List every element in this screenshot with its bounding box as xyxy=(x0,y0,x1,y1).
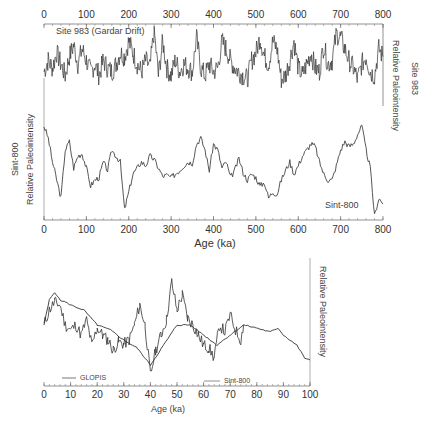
tick-label: 800 xyxy=(375,9,392,20)
tick-label: 800 xyxy=(375,224,392,235)
figure: 0100200300400500600700800 01002003004005… xyxy=(0,0,430,422)
tick-label: 90 xyxy=(278,389,290,400)
tick-label: 700 xyxy=(332,9,349,20)
bottom-chart-axis-ticks xyxy=(44,382,310,386)
bottom-axis-tick-labels: 0100200300400500600700800 xyxy=(41,224,392,235)
tick-label: 0 xyxy=(41,389,47,400)
sint-800-bottom-series-line xyxy=(44,293,310,366)
sint-800-annotation: Sint-800 xyxy=(325,200,359,210)
left-y-label-relative-paleointensity: Relative Paleointensity xyxy=(25,113,35,205)
tick-label: 300 xyxy=(163,224,180,235)
top-chart: 0100200300400500600700800 01002003004005… xyxy=(10,9,420,249)
tick-label: 200 xyxy=(120,224,137,235)
tick-label: 20 xyxy=(92,389,104,400)
legend-glopis-label: GLOPIS xyxy=(80,374,106,381)
legend-sint-800-label: Sint-800 xyxy=(224,377,250,384)
tick-label: 200 xyxy=(120,9,137,20)
tick-label: 300 xyxy=(163,9,180,20)
bottom-chart: 0102030405060708090100 GLOPIS Sint-800 A… xyxy=(41,258,328,414)
tick-label: 80 xyxy=(251,389,263,400)
tick-label: 600 xyxy=(290,224,307,235)
tick-label: 0 xyxy=(41,224,47,235)
tick-label: 0 xyxy=(41,9,47,20)
top-axis-tick-labels: 0100200300400500600700800 xyxy=(41,9,392,20)
tick-label: 10 xyxy=(65,389,77,400)
bottom-axis-ticks xyxy=(44,216,383,220)
tick-label: 700 xyxy=(332,224,349,235)
tick-label: 30 xyxy=(118,389,130,400)
tick-label: 100 xyxy=(78,9,95,20)
top-x-axis-title: Age (ka) xyxy=(194,237,236,249)
tick-label: 40 xyxy=(145,389,157,400)
tick-label: 70 xyxy=(225,389,237,400)
bottom-chart-axis-tick-labels: 0102030405060708090100 xyxy=(41,389,319,400)
bottom-chart-right-y-label: Relative Paleointensity xyxy=(318,266,328,358)
tick-label: 500 xyxy=(248,224,265,235)
tick-label: 50 xyxy=(171,389,183,400)
tick-label: 600 xyxy=(290,9,307,20)
left-y-label-sint-800: Sint-800 xyxy=(10,142,20,176)
tick-label: 400 xyxy=(205,9,222,20)
tick-label: 60 xyxy=(198,389,210,400)
bottom-chart-x-axis-title: Age (ka) xyxy=(151,404,185,414)
site-983-title: Site 983 (Gardar Drift) xyxy=(56,26,145,36)
tick-label: 400 xyxy=(205,224,222,235)
tick-label: 100 xyxy=(78,224,95,235)
right-y-label-site-983: Site 983 xyxy=(410,62,420,95)
tick-label: 500 xyxy=(248,9,265,20)
right-y-label-relative-paleointensity: Relative Paleointensity xyxy=(391,40,401,132)
tick-label: 100 xyxy=(302,389,319,400)
